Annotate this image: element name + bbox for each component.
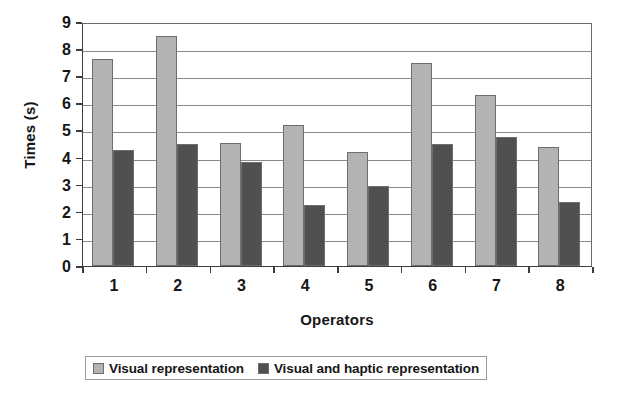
bar [92, 59, 113, 266]
x-tick-mark [401, 267, 403, 273]
bar [496, 137, 517, 266]
bar-group [466, 24, 530, 266]
bar [368, 186, 389, 266]
bar [411, 63, 432, 266]
bar [283, 125, 304, 266]
x-axis-ticks [82, 267, 592, 275]
x-tick-label: 7 [466, 277, 526, 295]
bar [113, 150, 134, 266]
y-tick-label: 7 [62, 66, 71, 88]
legend-item[interactable]: Visual representation [93, 361, 244, 376]
bar [304, 205, 325, 266]
bar [538, 147, 559, 266]
y-tick-label: 8 [62, 39, 71, 61]
bar [347, 152, 368, 266]
bar [156, 36, 177, 266]
bar-group [402, 24, 466, 266]
y-tick-label: 5 [62, 120, 71, 142]
bar [559, 202, 580, 266]
bar-group [83, 24, 147, 266]
x-tick-label: 6 [403, 277, 463, 295]
bar [475, 95, 496, 266]
plot-area [82, 23, 592, 267]
y-tick-label: 6 [62, 93, 71, 115]
legend-label: Visual representation [109, 361, 244, 376]
bar [177, 144, 198, 266]
x-tick-label: 1 [84, 277, 144, 295]
legend-swatch-icon [258, 363, 269, 374]
legend-item[interactable]: Visual and haptic representation [258, 361, 479, 376]
bar-group [338, 24, 402, 266]
x-tick-mark [146, 267, 148, 273]
bar-chart: Times (s) 0123456789 12345678 Operators … [0, 0, 617, 396]
y-tick-label: 2 [62, 202, 71, 224]
y-tick-label: 0 [62, 256, 71, 278]
bar-group [529, 24, 593, 266]
bar-group [147, 24, 211, 266]
x-tick-mark [465, 267, 467, 273]
bar-group [274, 24, 338, 266]
x-tick-mark [210, 267, 212, 273]
bar [220, 143, 241, 266]
bar [432, 144, 453, 266]
bars-layer [83, 24, 591, 266]
x-tick-label: 2 [148, 277, 208, 295]
x-tick-label: 4 [275, 277, 335, 295]
bar-group [211, 24, 275, 266]
y-tick-label: 9 [62, 12, 71, 34]
y-tick-label: 3 [62, 175, 71, 197]
x-tick-label: 3 [211, 277, 271, 295]
x-axis-title: Operators [82, 311, 592, 328]
x-tick-mark [337, 267, 339, 273]
x-tick-mark [82, 267, 84, 273]
legend-label: Visual and haptic representation [274, 361, 479, 376]
x-tick-label: 8 [530, 277, 590, 295]
y-axis: 0123456789 [0, 0, 82, 396]
y-tick-label: 4 [62, 148, 71, 170]
chart-legend: Visual representationVisual and haptic r… [85, 356, 487, 380]
y-tick-label: 1 [62, 229, 71, 251]
bar [241, 162, 262, 266]
x-tick-mark [592, 267, 594, 273]
x-tick-label: 5 [339, 277, 399, 295]
x-tick-mark [273, 267, 275, 273]
x-axis-labels: 12345678 [82, 277, 592, 301]
x-tick-mark [528, 267, 530, 273]
legend-swatch-icon [93, 363, 104, 374]
